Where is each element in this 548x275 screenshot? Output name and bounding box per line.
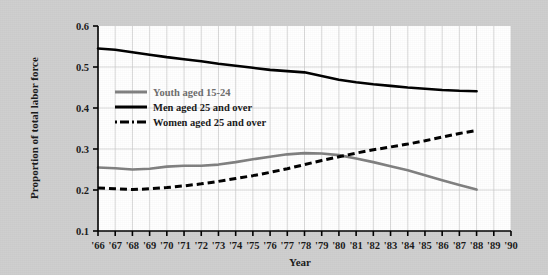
x-tick-label: '78 bbox=[298, 240, 311, 251]
x-tick-label: '76 bbox=[263, 240, 276, 251]
x-tick-label: '80 bbox=[332, 240, 345, 251]
x-tick-label: '89 bbox=[487, 240, 500, 251]
x-tick-label: '87 bbox=[453, 240, 466, 251]
y-tick-label: 0.5 bbox=[76, 62, 89, 73]
x-tick-label: '69 bbox=[143, 240, 156, 251]
x-tick-label: '72 bbox=[195, 240, 208, 251]
x-tick-label: '86 bbox=[435, 240, 448, 251]
y-tick-label: 0.2 bbox=[76, 185, 89, 196]
x-tick-label: '90 bbox=[504, 240, 517, 251]
x-tick-label: '75 bbox=[246, 240, 259, 251]
x-axis-title: Year bbox=[289, 256, 311, 268]
x-tick-label: '81 bbox=[349, 240, 362, 251]
x-tick-label: '66 bbox=[91, 240, 104, 251]
x-tick-label: '70 bbox=[160, 240, 173, 251]
legend-label: Men aged 25 and over bbox=[153, 102, 253, 113]
x-tick-label: '83 bbox=[384, 240, 397, 251]
x-tick-label: '79 bbox=[315, 240, 328, 251]
legend-label: Youth aged 15-24 bbox=[153, 87, 231, 98]
line-chart-svg: 0.60.50.40.30.20.1 '66'67'68'69'70'71'72… bbox=[0, 0, 548, 275]
y-tick-label: 0.3 bbox=[76, 144, 89, 155]
y-axis-title: Proportion of total labor force bbox=[28, 57, 40, 199]
legend-label: Women aged 25 and over bbox=[153, 117, 267, 128]
x-tick-label: '84 bbox=[401, 240, 415, 251]
y-tick-label: 0.6 bbox=[76, 21, 89, 32]
x-tick-label: '68 bbox=[126, 240, 139, 251]
y-tick-label: 0.4 bbox=[76, 103, 90, 114]
x-tick-label: '71 bbox=[177, 240, 190, 251]
x-tick-label: '67 bbox=[108, 240, 121, 251]
y-tick-label: 0.1 bbox=[76, 226, 89, 237]
x-tick-label: '74 bbox=[229, 240, 243, 251]
x-tick-label: '73 bbox=[212, 240, 225, 251]
x-tick-label: '82 bbox=[367, 240, 380, 251]
x-tick-label: '85 bbox=[418, 240, 431, 251]
chart-figure: 0.60.50.40.30.20.1 '66'67'68'69'70'71'72… bbox=[0, 0, 548, 275]
x-tick-label: '77 bbox=[281, 240, 294, 251]
x-tick-label: '88 bbox=[470, 240, 483, 251]
